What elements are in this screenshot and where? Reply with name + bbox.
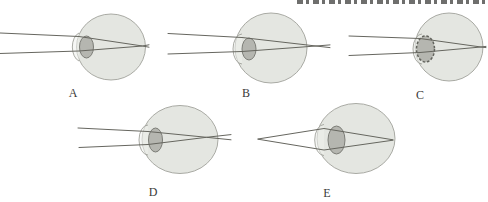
panel-label-d: D [149, 185, 158, 199]
eye-refraction-figure: A B C D [0, 0, 488, 202]
eye-diagram-c: C [349, 13, 486, 102]
panel-label-b: B [242, 86, 250, 100]
textbook-figure-page: A B C D [0, 0, 488, 202]
panel-label-e: E [323, 186, 330, 200]
panel-label-a: A [69, 86, 78, 100]
eye-diagram-d: D [78, 106, 231, 200]
lens [80, 36, 94, 58]
cornea [72, 33, 79, 61]
cornea [139, 125, 148, 155]
eye-diagram-b: B [168, 13, 330, 100]
panel-label-c: C [416, 88, 424, 102]
cornea [233, 34, 242, 64]
eye-diagram-e: E [258, 104, 395, 201]
eye-diagram-a: A [0, 14, 149, 100]
lens [242, 38, 256, 60]
